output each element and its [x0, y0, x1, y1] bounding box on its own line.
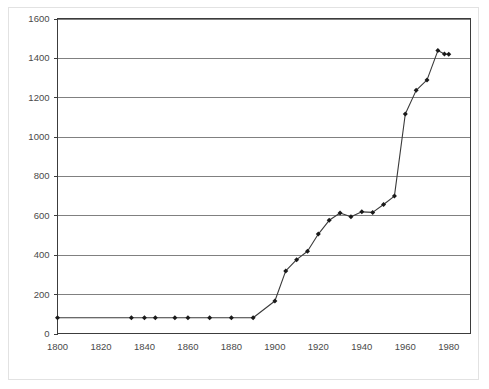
- y-axis-label-800: 800: [34, 170, 50, 181]
- x-axis-label-1880: 1880: [221, 341, 242, 352]
- x-axis-label-1920: 1920: [308, 341, 329, 352]
- data-point-1834: [129, 315, 134, 320]
- data-point-1800: [55, 315, 60, 320]
- data-point-1940: [359, 209, 364, 214]
- gridlines: [58, 20, 471, 295]
- y-axis-tick-labels: 02004006008001000120014001600: [28, 13, 49, 339]
- x-axis-tick-labels: 1800182018401860188019001920194019601980: [47, 341, 459, 352]
- x-axis-label-1840: 1840: [134, 341, 155, 352]
- y-axis-label-1600: 1600: [28, 13, 49, 24]
- data-series: [58, 51, 449, 318]
- data-point-1854: [172, 315, 177, 320]
- x-axis-label-1980: 1980: [438, 341, 459, 352]
- data-point-1845: [153, 315, 158, 320]
- y-axis-label-400: 400: [34, 249, 50, 260]
- data-point-1975: [435, 48, 440, 53]
- line-chart: 02004006008001000120014001600 1800182018…: [0, 0, 489, 389]
- data-point-1978: [442, 51, 447, 56]
- data-point-1980: [446, 52, 451, 57]
- data-point-markers: [55, 48, 451, 320]
- x-axis-label-1860: 1860: [177, 341, 198, 352]
- x-axis-label-1800: 1800: [47, 341, 68, 352]
- data-point-1870: [207, 315, 212, 320]
- y-axis-label-1400: 1400: [28, 52, 49, 63]
- series-line-1: [58, 51, 449, 318]
- y-axis-label-600: 600: [34, 210, 50, 221]
- y-axis-label-0: 0: [44, 328, 49, 339]
- data-point-1880: [229, 315, 234, 320]
- y-axis-label-1000: 1000: [28, 131, 49, 142]
- x-axis-label-1820: 1820: [90, 341, 111, 352]
- x-axis-label-1900: 1900: [264, 341, 285, 352]
- data-point-1860: [185, 315, 190, 320]
- data-point-1840: [142, 315, 147, 320]
- y-axis-label-200: 200: [34, 289, 50, 300]
- x-axis-label-1940: 1940: [351, 341, 372, 352]
- data-point-1960: [403, 111, 408, 116]
- y-axis-label-1200: 1200: [28, 92, 49, 103]
- x-axis-label-1960: 1960: [395, 341, 416, 352]
